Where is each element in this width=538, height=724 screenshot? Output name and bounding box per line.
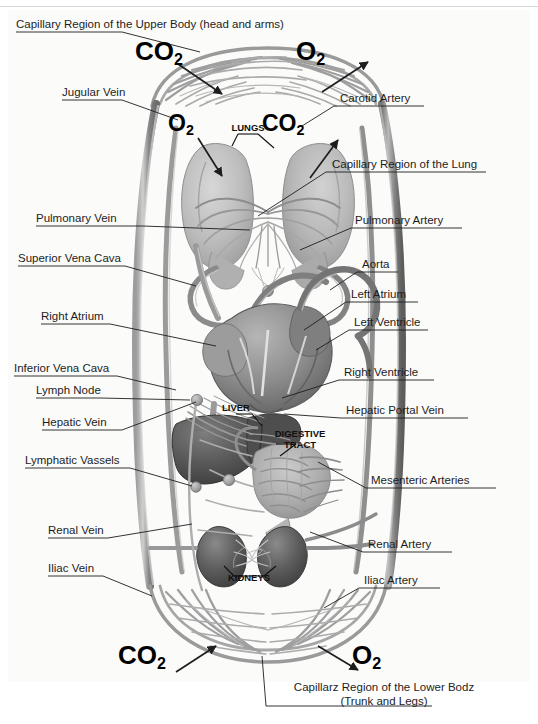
label-hepatic-vein: Hepatic Vein xyxy=(42,416,107,429)
left-atrium-shape xyxy=(290,306,330,356)
label-left-ventricle: Left Ventricle xyxy=(354,316,420,329)
gas-subscript: 2 xyxy=(372,654,381,672)
label-inferior-vena-cava: Inferior Vena Cava xyxy=(14,362,109,375)
organ-label-liver: LIVER xyxy=(215,402,257,413)
gas-subscript: 2 xyxy=(297,122,305,138)
label-hepatic-portal-vein: Hepatic Portal Vein xyxy=(346,404,444,417)
digestive-tract-line2: TRACT xyxy=(268,439,332,450)
gas-subscript: 2 xyxy=(174,50,183,68)
label-lymphatic-vassels: Lymphatic Vassels xyxy=(25,454,120,467)
gas-label-co2-upper: CO2 xyxy=(135,36,183,67)
organ-label-kidneys: KIDNEYS xyxy=(208,572,290,583)
label-capillary-region-lung: Capillary Region of the Lung xyxy=(332,158,477,171)
gas-text: O xyxy=(352,640,372,670)
label-renal-vein: Renal Vein xyxy=(48,524,104,537)
label-aorta: Aorta xyxy=(362,258,390,271)
label-pulmonary-vein: Pulmonary Vein xyxy=(36,212,117,225)
gas-text: CO xyxy=(118,640,157,670)
capillary-bed-lower-body xyxy=(150,586,386,662)
caption-capillary-region-lower-body: Capillarz Region of the Lower Bodz (Trun… xyxy=(268,680,500,708)
gas-text: O xyxy=(168,110,186,136)
label-pulmonary-artery: Pulmonary Artery xyxy=(355,214,443,227)
label-right-atrium: Right Atrium xyxy=(41,310,104,323)
lymph-node-upper xyxy=(191,394,202,405)
label-iliac-vein: Iliac Vein xyxy=(48,562,94,575)
label-lymph-node: Lymph Node xyxy=(36,384,101,397)
circulatory-system-figure: Capillary Region of the Upper Body (head… xyxy=(0,0,538,724)
label-underlines-left xyxy=(14,32,143,576)
gas-subscript: 2 xyxy=(157,654,166,672)
gas-label-o2-upper: O2 xyxy=(296,36,325,67)
lymph-node-mid xyxy=(191,482,201,492)
label-superior-vena-cava: Superior Vena Cava xyxy=(18,252,121,265)
label-left-atrium: Left Atrium xyxy=(351,288,406,301)
gas-text: CO xyxy=(135,36,174,66)
right-atrium-shape xyxy=(203,324,248,377)
lungs-illustration xyxy=(182,144,355,289)
organ-label-lungs: LUNGS xyxy=(224,122,272,133)
gas-text: O xyxy=(296,36,316,66)
label-jugular-vein: Jugular Vein xyxy=(62,86,125,99)
gas-subscript: 2 xyxy=(186,122,194,138)
caption-line2: (Trunk and Legs) xyxy=(268,694,500,708)
label-capillary-region-upper-body: Capillary Region of the Upper Body (head… xyxy=(16,18,284,31)
label-right-ventricle: Right Ventricle xyxy=(344,366,418,379)
caption-line1: Capillarz Region of the Lower Bodz xyxy=(268,680,500,694)
heart-illustration xyxy=(203,304,332,413)
gas-label-o2-lower: O2 xyxy=(352,640,381,671)
gas-label-o2-lung: O2 xyxy=(168,110,194,137)
digestive-tract-line1: DIGESTIVE xyxy=(268,428,332,439)
lymph-node-abdominal xyxy=(223,474,234,485)
label-mesenteric-arteries: Mesenteric Arteries xyxy=(371,474,469,487)
label-carotid-artery: Carotid Artery xyxy=(340,92,410,105)
organ-label-digestive-tract: DIGESTIVE TRACT xyxy=(268,428,332,450)
label-iliac-artery: Iliac Artery xyxy=(364,574,418,587)
label-renal-artery: Renal Artery xyxy=(368,538,431,551)
gas-label-co2-lower: CO2 xyxy=(118,640,166,671)
gas-subscript: 2 xyxy=(316,50,325,68)
